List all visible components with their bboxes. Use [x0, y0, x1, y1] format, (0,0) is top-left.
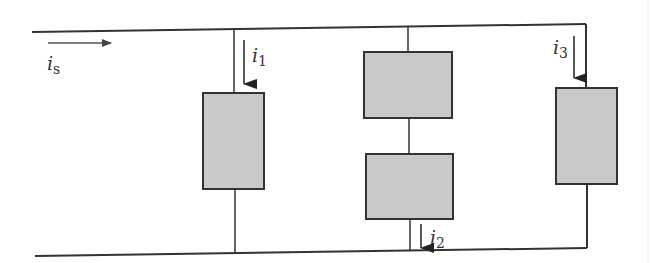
branch-2	[364, 27, 453, 251]
source-current-label: is	[47, 54, 60, 76]
i2-label: i2	[430, 228, 445, 250]
element-2a	[364, 52, 452, 118]
element-2b	[366, 154, 453, 219]
label-sub: 1	[258, 53, 267, 69]
element-3	[556, 88, 617, 184]
i1-label: i1	[252, 46, 267, 68]
label-sub: 3	[559, 45, 568, 61]
label-sub: 2	[436, 235, 445, 251]
i3-label: i3	[553, 38, 568, 60]
label-sub: s	[53, 61, 60, 77]
top-wire	[32, 24, 586, 88]
circuit-diagram: is i1 i2 i3	[0, 0, 651, 263]
bottom-wire	[35, 184, 587, 256]
element-1	[203, 93, 264, 189]
